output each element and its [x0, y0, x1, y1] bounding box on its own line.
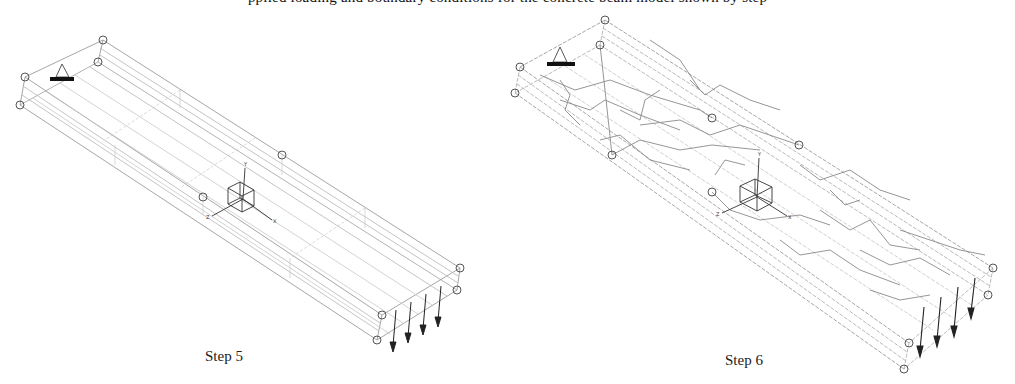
beam-wireframe-step-6: Y X Z [500, 0, 1015, 384]
figure-step-6: Y X Z [500, 0, 1015, 384]
support-icon [50, 64, 74, 81]
load-arrows [917, 278, 975, 357]
node-markers [511, 16, 997, 373]
svg-text:Y: Y [243, 161, 248, 167]
load-arrows [390, 286, 441, 352]
svg-text:X: X [788, 214, 792, 220]
svg-text:Y: Y [757, 151, 762, 157]
svg-text:Z: Z [716, 211, 720, 217]
svg-text:Z: Z [206, 214, 210, 220]
figure-label-step-5: Step 5 [205, 348, 243, 365]
svg-text:X: X [273, 218, 277, 224]
figure-label-step-6: Step 6 [725, 352, 763, 369]
beam-wireframe-step-5: Y X Z [0, 0, 500, 384]
figure-step-5: Y X Z [0, 0, 500, 384]
